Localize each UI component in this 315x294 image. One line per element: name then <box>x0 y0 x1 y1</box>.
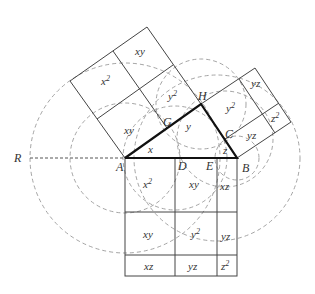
cell-right-yz-bottom: yz <box>246 129 257 141</box>
label-E: E <box>205 159 214 173</box>
square-on-AB <box>125 158 237 276</box>
pythagorean-dissection-diagram: R A D E B G H C x y z xy x2 xy y2 yz y2 … <box>0 0 315 294</box>
cell-right-y2: y2 <box>225 101 235 114</box>
cell-bottom-xz-2: xz <box>143 260 154 272</box>
label-y: y <box>185 120 191 132</box>
cells-bottom-square: x2 xy xz xy y2 yz xz yz z2 <box>142 177 231 272</box>
cell-left-y2: y2 <box>167 89 177 102</box>
label-z: z <box>222 144 228 156</box>
cell-bottom-z2: z2 <box>220 259 229 272</box>
triangle-AHB <box>125 104 237 158</box>
cell-right-yz-top: yz <box>250 77 261 89</box>
cell-left-xy-bottom: xy <box>123 124 134 136</box>
cell-right-z2: z2 <box>270 111 279 124</box>
label-G: G <box>163 115 172 129</box>
cell-bottom-yz-1: yz <box>220 230 231 242</box>
cell-left-xy-top: xy <box>134 45 145 57</box>
label-D: D <box>177 159 187 173</box>
cell-bottom-y2: y2 <box>190 227 200 240</box>
cell-bottom-xy-1: xy <box>188 178 199 190</box>
cell-bottom-x2: x2 <box>142 177 152 190</box>
label-x: x <box>147 143 153 155</box>
cells-right-square: yz y2 z2 yz <box>225 77 279 141</box>
label-C: C <box>225 127 234 141</box>
cell-bottom-xy-2: xy <box>142 228 153 240</box>
cell-bottom-yz-2: yz <box>187 260 198 272</box>
label-A: A <box>115 160 124 174</box>
label-B: B <box>242 161 250 175</box>
label-R: R <box>13 151 22 165</box>
cell-left-x2: x2 <box>100 74 110 87</box>
cell-bottom-xz-1: xz <box>219 180 230 192</box>
label-H: H <box>197 89 208 103</box>
